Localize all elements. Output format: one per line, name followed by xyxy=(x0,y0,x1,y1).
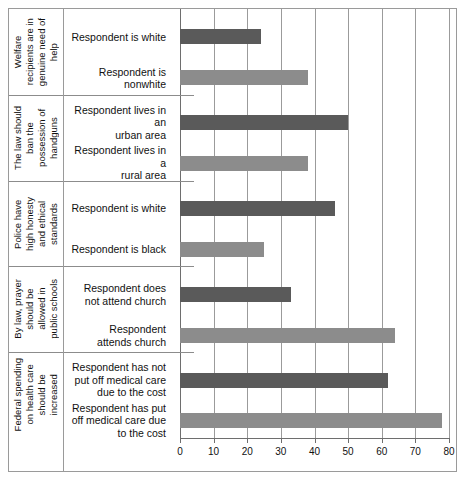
bar xyxy=(180,115,348,130)
bar xyxy=(180,242,264,257)
plot-inner: 01020304050607080 xyxy=(180,9,449,471)
group-title-text: Welfare recipients are in genuine need o… xyxy=(9,9,63,95)
bar xyxy=(180,29,261,44)
x-axis-line xyxy=(180,438,449,439)
group-separator xyxy=(64,95,172,96)
category-label: Respondent lives in a rural area xyxy=(66,145,166,183)
x-tick-label-60: 60 xyxy=(376,446,387,457)
group-separator xyxy=(172,266,194,267)
chart-frame: Welfare recipients are in genuine need o… xyxy=(8,8,457,472)
group-separator xyxy=(64,266,172,267)
bar xyxy=(180,156,308,171)
group-label-column: Welfare recipients are in genuine need o… xyxy=(9,9,64,471)
group-separator xyxy=(64,181,172,182)
group-separator xyxy=(172,95,194,96)
bar xyxy=(180,328,395,343)
x-tick-label-30: 30 xyxy=(275,446,286,457)
category-label: Respondent attends church xyxy=(66,323,166,348)
x-tick-label-70: 70 xyxy=(410,446,421,457)
bar xyxy=(180,201,335,216)
category-label: Respondent lives in an urban area xyxy=(66,104,166,142)
category-label: Respondent is white xyxy=(66,31,166,44)
group-title-label: Welfare recipients are in genuine need o… xyxy=(12,18,60,86)
category-label: Respondent is black xyxy=(66,243,166,256)
bar xyxy=(180,373,388,388)
x-tick-label-80: 80 xyxy=(443,446,454,457)
gridline-70 xyxy=(415,9,416,438)
group-title-label: Federal spending on health care should b… xyxy=(12,358,60,431)
bar xyxy=(180,287,291,302)
group-label-3: By law, prayer should be allowed in publ… xyxy=(9,266,63,352)
group-title-text: Federal spending on health care should b… xyxy=(9,352,63,438)
category-label-column: Respondent is whiteRespondent is nonwhit… xyxy=(64,9,172,471)
bar xyxy=(180,413,442,428)
bar xyxy=(180,70,308,85)
group-title-text: Police have high honesty and ethical sta… xyxy=(9,181,63,267)
x-tick-label-0: 0 xyxy=(177,446,183,457)
group-separator xyxy=(9,266,63,267)
category-label: Respondent is white xyxy=(66,202,166,215)
group-separator xyxy=(9,95,63,96)
x-tick-80 xyxy=(449,438,450,443)
group-separator xyxy=(9,352,63,353)
category-label: Respondent has put off medical care due … xyxy=(66,402,166,440)
group-label-0: Welfare recipients are in genuine need o… xyxy=(9,9,63,95)
group-title-label: The law should ban the possession of han… xyxy=(12,106,60,170)
group-label-4: Federal spending on health care should b… xyxy=(9,352,63,438)
category-label: Respondent does not attend church xyxy=(66,282,166,307)
group-title-label: By law, prayer should be allowed in publ… xyxy=(12,279,60,339)
group-title-text: By law, prayer should be allowed in publ… xyxy=(9,266,63,352)
x-tick-label-10: 10 xyxy=(208,446,219,457)
group-separator xyxy=(9,181,63,182)
group-label-1: The law should ban the possession of han… xyxy=(9,95,63,181)
group-separator xyxy=(172,181,194,182)
group-title-text: The law should ban the possession of han… xyxy=(9,95,63,181)
x-tick-label-40: 40 xyxy=(309,446,320,457)
x-tick-label-50: 50 xyxy=(343,446,354,457)
x-tick-label-20: 20 xyxy=(242,446,253,457)
group-label-2: Police have high honesty and ethical sta… xyxy=(9,181,63,267)
gridline-80 xyxy=(449,9,450,438)
group-title-label: Police have high honesty and ethical sta… xyxy=(12,197,60,251)
category-label: Respondent has not put off medical care … xyxy=(66,361,166,399)
category-label: Respondent is nonwhite xyxy=(66,65,166,90)
group-separator xyxy=(172,352,194,353)
plot-area: 01020304050607080 xyxy=(172,9,456,471)
group-separator xyxy=(64,352,172,353)
